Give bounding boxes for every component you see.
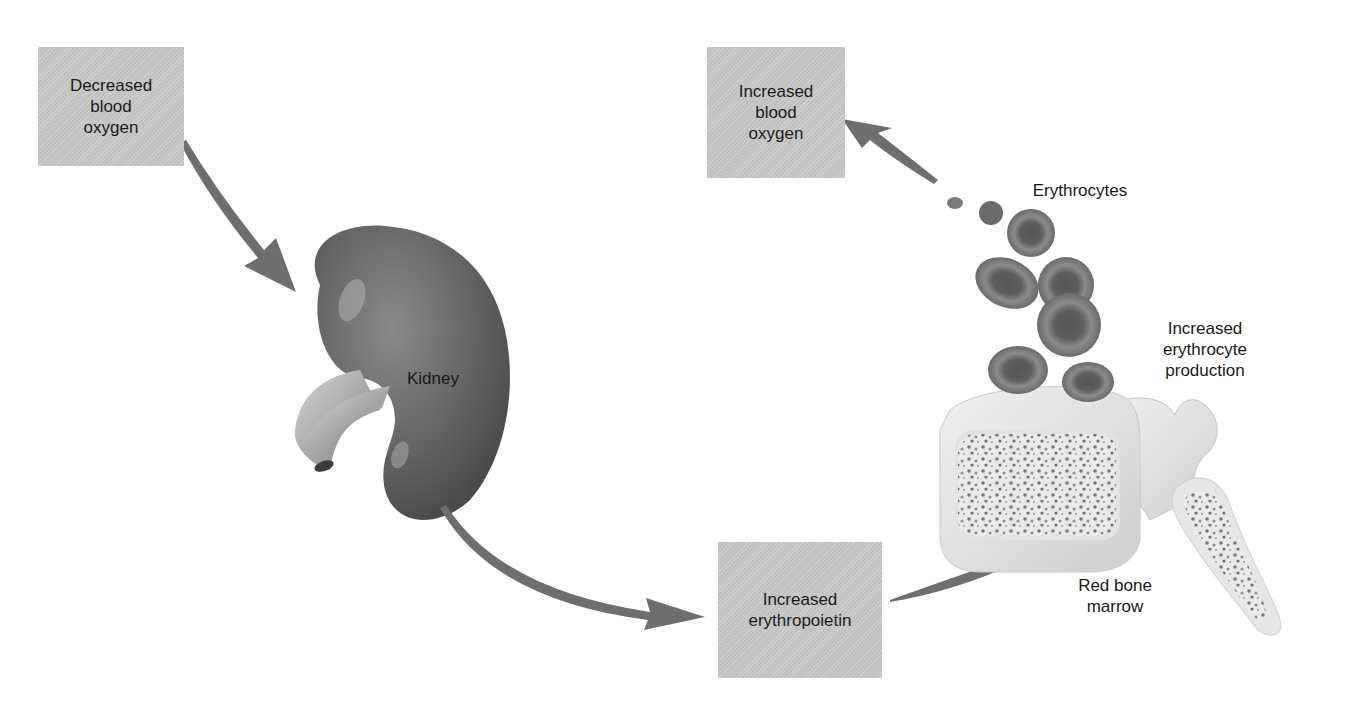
- box-text: Decreased blood oxygen: [70, 75, 152, 138]
- erythrocytes-icon: [947, 197, 1114, 402]
- label-erythrocytes: Erythrocytes: [1015, 180, 1145, 201]
- box-decreased-blood-oxygen: Decreased blood oxygen: [38, 47, 184, 166]
- box-text: Increased erythropoietin: [748, 589, 851, 631]
- label-increased-erythrocyte-production: Increased erythrocyte production: [1140, 318, 1270, 381]
- arrow-to-erythropoietin: [440, 505, 705, 630]
- label-red-bone-marrow: Red bone marrow: [1060, 575, 1170, 617]
- arrow-to-increased-blood-oxygen: [842, 119, 938, 184]
- box-text: Increased blood oxygen: [739, 81, 814, 144]
- box-increased-erythropoietin: Increased erythropoietin: [718, 542, 882, 678]
- box-increased-blood-oxygen: Increased blood oxygen: [707, 47, 845, 178]
- arrow-to-kidney: [180, 140, 296, 292]
- label-kidney: Kidney: [393, 368, 473, 389]
